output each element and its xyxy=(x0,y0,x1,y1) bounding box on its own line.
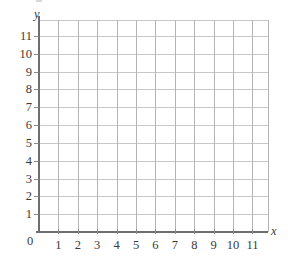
x-tick-mark xyxy=(97,229,98,234)
y-tick-label-group: 1234567891011 xyxy=(0,0,32,265)
gridline-vertical xyxy=(214,20,215,232)
gridline-vertical xyxy=(136,20,137,232)
gridline-vertical xyxy=(117,20,118,232)
x-tick-mark xyxy=(175,229,176,234)
x-tick-mark xyxy=(78,229,79,234)
gridline-vertical xyxy=(268,20,269,232)
gridline-vertical xyxy=(194,20,195,232)
y-tick-label: 7 xyxy=(6,101,32,114)
y-tick-mark xyxy=(34,143,39,144)
y-tick-label: 2 xyxy=(6,190,32,203)
y-tick-mark xyxy=(34,125,39,126)
gridline-vertical xyxy=(58,20,59,232)
y-tick-mark xyxy=(34,214,39,215)
gridline-vertical xyxy=(97,20,98,232)
y-tick-mark xyxy=(34,179,39,180)
coordinate-grid-figure: 1234567891011 1234567891011 0 y x xyxy=(0,0,288,265)
y-tick-mark xyxy=(34,107,39,108)
gridline-vertical xyxy=(155,20,156,232)
gridline-vertical xyxy=(233,20,234,232)
x-tick-mark xyxy=(58,229,59,234)
y-tick-label: 4 xyxy=(6,155,32,168)
y-tick-mark xyxy=(34,54,39,55)
y-tick-label: 11 xyxy=(6,30,32,43)
gridline-vertical xyxy=(175,20,176,232)
y-tick-label: 9 xyxy=(6,66,32,79)
y-axis-label: y xyxy=(34,8,40,21)
x-tick-mark xyxy=(214,229,215,234)
y-tick-label: 1 xyxy=(6,208,32,221)
gridline-vertical xyxy=(78,20,79,232)
x-tick-mark xyxy=(117,229,118,234)
y-tick-mark xyxy=(34,161,39,162)
scan-artifact xyxy=(36,0,42,2)
y-tick-mark xyxy=(34,89,39,90)
y-tick-label: 6 xyxy=(6,119,32,132)
y-tick-label: 10 xyxy=(6,48,32,61)
gridline-vertical xyxy=(252,20,253,232)
plot-area xyxy=(39,20,268,232)
x-tick-label: 11 xyxy=(240,239,264,252)
origin-label: 0 xyxy=(27,235,33,248)
y-tick-mark xyxy=(34,196,39,197)
x-tick-mark xyxy=(194,229,195,234)
x-tick-mark xyxy=(136,229,137,234)
y-tick-mark xyxy=(34,36,39,37)
y-tick-label: 8 xyxy=(6,83,32,96)
x-tick-mark xyxy=(233,229,234,234)
x-axis-label: x xyxy=(271,225,277,238)
y-tick-label: 5 xyxy=(6,137,32,150)
y-tick-mark xyxy=(34,72,39,73)
y-tick-label: 3 xyxy=(6,173,32,186)
x-tick-mark xyxy=(252,229,253,234)
x-tick-mark xyxy=(155,229,156,234)
